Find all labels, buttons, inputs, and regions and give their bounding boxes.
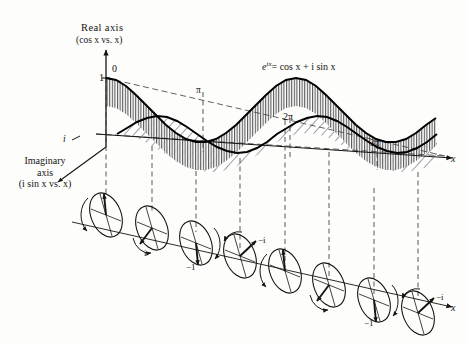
phasor-label-6: −1 xyxy=(364,318,374,328)
origin-label: 0 xyxy=(112,63,117,74)
equation-rest: = cos x + i sin x xyxy=(272,61,336,72)
tick-label-3pi: 3π xyxy=(370,138,380,148)
euler-equation: eix= cos x + i sin x xyxy=(262,60,336,72)
phasor-group xyxy=(81,188,441,340)
phasor-6 xyxy=(351,273,398,327)
imaginary-unit-label: i xyxy=(63,134,66,144)
real-axis-subtitle: (cos x vs. x) xyxy=(76,35,122,45)
tick-label-2pi: 2π xyxy=(283,111,293,122)
x-axis-label-top: x xyxy=(451,153,455,164)
x-axis-label-bottom: x xyxy=(451,302,455,313)
phasor-0 xyxy=(81,188,129,242)
phasor-label-1: i xyxy=(144,248,147,258)
imaginary-axis-title-line1: Imaginary xyxy=(24,155,65,166)
phasor-2 xyxy=(173,216,220,270)
imaginary-axis-subtitle: (i sin x vs. x) xyxy=(19,178,72,189)
tick-label-pi: π xyxy=(196,85,201,95)
real-axis-title: Real axis xyxy=(81,22,123,33)
real-unit-label: 1 xyxy=(99,72,104,83)
phasor-label-7: −i xyxy=(436,292,444,302)
phasor-4 xyxy=(260,244,308,298)
imaginary-axis-title-line2: axis xyxy=(37,167,53,178)
phasor-label-2: −1 xyxy=(186,262,196,272)
phasor-label-3: −i xyxy=(258,235,266,245)
unit-tick-i xyxy=(72,136,80,140)
imaginary-axis-title: Imaginary axis (i sin x vs. x) xyxy=(6,155,84,190)
